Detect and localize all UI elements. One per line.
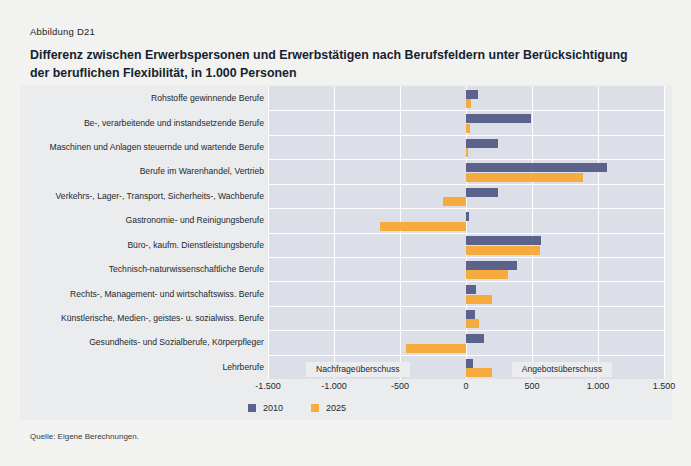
bar-2025-0 xyxy=(466,99,471,108)
figure-panel: Abbildung D21 Differenz zwischen Erwerbs… xyxy=(0,0,691,466)
row-separator xyxy=(268,281,664,282)
annotation-supply-surplus: Angebotsüberschuss xyxy=(512,362,612,377)
row-separator xyxy=(268,135,664,136)
bar-2010-9 xyxy=(466,310,475,319)
x-tick-label: -1.000 xyxy=(321,381,347,391)
bar-2025-11 xyxy=(466,368,492,377)
bar-2010-6 xyxy=(466,236,541,245)
figure-title-line-1: Differenz zwischen Erwerbspersonen und E… xyxy=(30,48,628,62)
chart-legend: 2010 2025 xyxy=(248,403,346,413)
x-tick-label: 0 xyxy=(463,381,468,391)
category-label: Lehrberufe xyxy=(16,362,264,372)
page-title: Differenz zwischen Erwerbspersonen und E… xyxy=(30,46,665,82)
row-separator xyxy=(268,184,664,185)
legend-label-2010: 2010 xyxy=(263,403,283,413)
source-note: Quelle: Eigene Berechnungen. xyxy=(30,432,139,441)
legend-entry-2025: 2025 xyxy=(311,403,346,413)
legend-swatch-2025-icon xyxy=(311,404,319,412)
row-separator xyxy=(268,233,664,234)
bar-2010-0 xyxy=(466,90,478,99)
x-tick-label: 1.500 xyxy=(653,381,676,391)
legend-label-2025: 2025 xyxy=(326,403,346,413)
bar-2010-8 xyxy=(466,285,476,294)
x-tick-label: -1.500 xyxy=(255,381,281,391)
bar-2025-2 xyxy=(466,148,468,157)
figure-number: Abbildung D21 xyxy=(30,26,95,37)
x-tick-label: 1.000 xyxy=(587,381,610,391)
category-label: Gastronomie- und Reinigungsberufe xyxy=(16,215,264,225)
bar-2010-3 xyxy=(466,163,607,172)
chart-panel: Rohstoffe gewinnende BerufeBe-, verarbei… xyxy=(20,85,672,420)
bar-2025-4 xyxy=(443,197,466,206)
bar-2010-1 xyxy=(466,114,531,123)
category-label: Rechts-, Management- und wirtschaftswiss… xyxy=(16,289,264,299)
bar-2010-11 xyxy=(466,359,473,368)
row-separator xyxy=(268,110,664,111)
category-label: Rohstoffe gewinnende Berufe xyxy=(16,93,264,103)
bar-2010-7 xyxy=(466,261,517,270)
bar-2010-2 xyxy=(466,139,498,148)
row-separator xyxy=(268,306,664,307)
x-tick-label: -500 xyxy=(391,381,409,391)
figure-title-line-2: der beruflichen Flexibilität, in 1.000 P… xyxy=(30,64,665,82)
category-label: Be-, verarbeitende und instandsetzende B… xyxy=(16,118,264,128)
plot-area: Nachfrageüberschuss Angebotsüberschuss xyxy=(268,86,664,379)
category-label: Berufe im Warenhandel, Vertrieb xyxy=(16,166,264,176)
category-label: Büro-, kaufm. Dienstleistungsberufe xyxy=(16,240,264,250)
row-separator xyxy=(268,330,664,331)
bar-2025-7 xyxy=(466,270,508,279)
x-tick-label: 500 xyxy=(524,381,539,391)
category-label: Verkehrs-, Lager-, Transport, Sicherheit… xyxy=(16,191,264,201)
bar-2025-6 xyxy=(466,246,540,255)
annotation-demand-surplus: Nachfrageüberschuss xyxy=(306,362,410,377)
bar-2025-8 xyxy=(466,295,492,304)
bar-2010-5 xyxy=(466,212,469,221)
legend-entry-2010: 2010 xyxy=(248,403,283,413)
bar-2025-5 xyxy=(380,222,466,231)
row-separator xyxy=(268,355,664,356)
category-label: Künstlerische, Medien-, geistes- u. sozi… xyxy=(16,313,264,323)
category-axis-labels: Rohstoffe gewinnende BerufeBe-, verarbei… xyxy=(20,85,270,379)
bar-2010-4 xyxy=(466,188,498,197)
bar-2025-10 xyxy=(406,344,466,353)
bar-2025-3 xyxy=(466,173,583,182)
legend-swatch-2010-icon xyxy=(248,404,256,412)
row-separator xyxy=(268,257,664,258)
bar-2025-9 xyxy=(466,319,479,328)
bar-2025-1 xyxy=(466,124,470,133)
x-axis-tick-labels: -1.500-1.000-50005001.0001.500 xyxy=(268,381,664,397)
category-label: Gesundheits- und Sozialberufe, Körperpfl… xyxy=(16,337,264,347)
category-label: Maschinen und Anlagen steuernde und wart… xyxy=(16,142,264,152)
category-label: Technisch-naturwissenschaftliche Berufe xyxy=(16,264,264,274)
row-separator xyxy=(268,159,664,160)
bar-2010-10 xyxy=(466,334,484,343)
row-separator xyxy=(268,208,664,209)
